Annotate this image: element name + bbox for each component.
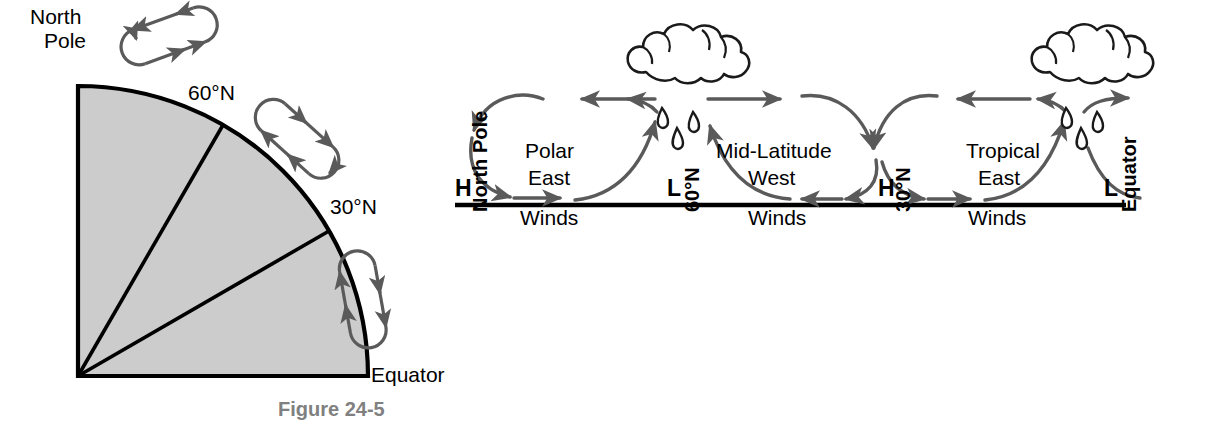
- wind-belt-tropical-line3: Winds: [968, 207, 1026, 229]
- raindrop: [673, 128, 683, 149]
- wind-belt-midlat-line2: West: [748, 167, 795, 189]
- wind-belt-polar-line1: Polar: [525, 140, 574, 162]
- figure-container: North Pole 60°N 30°N Equator Figure 24-5: [0, 0, 1217, 437]
- label-equator-left: Equator: [371, 364, 445, 386]
- wind-belt-polar-line2: East: [528, 167, 570, 189]
- wind-belt-tropical-line1: Tropical: [966, 140, 1040, 162]
- boundary-label-30n: 30°N: [893, 167, 914, 212]
- cloud-60n: [628, 24, 749, 149]
- boundary-label-equator: Equator: [1119, 136, 1140, 212]
- raindrop: [658, 108, 668, 128]
- label-north-pole-line1: North: [30, 6, 81, 28]
- earth-quadrant-shape: [78, 86, 368, 376]
- boundary-label-north-pole: North Pole: [470, 111, 491, 212]
- cloud-equator: [1032, 24, 1153, 149]
- raindrop: [1093, 112, 1103, 132]
- wind-belt-polar-line3: Winds: [520, 207, 578, 229]
- raindrop: [1077, 128, 1087, 149]
- wind-belt-midlat-line3: Winds: [748, 207, 806, 229]
- pressure-label-equator: L: [1104, 176, 1118, 200]
- figure-caption: Figure 24-5: [278, 398, 385, 421]
- polar-cell-loop: [116, 2, 222, 70]
- wind-belt-tropical-line2: East: [978, 167, 1020, 189]
- raindrop: [689, 112, 699, 132]
- pressure-label-60n: L: [667, 176, 681, 200]
- label-lat-60n: 60°N: [188, 82, 235, 104]
- label-north-pole-line2: Pole: [44, 30, 86, 52]
- label-lat-30n: 30°N: [330, 196, 377, 218]
- wind-belt-midlat-line1: Mid-Latitude: [716, 140, 832, 162]
- boundary-label-60n: 60°N: [682, 167, 703, 212]
